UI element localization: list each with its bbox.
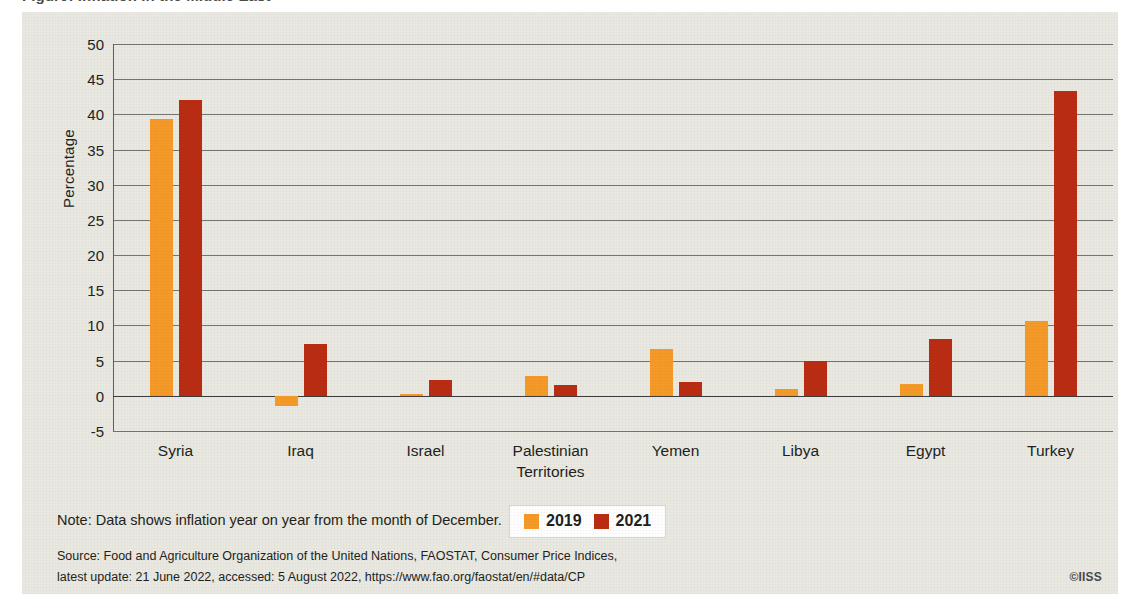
gridline-50 (113, 44, 1113, 45)
bar-yemen-2021 (679, 382, 702, 396)
gridline-5 (113, 361, 1113, 362)
category-label-palestinian-territories: Palestinian Territories (488, 440, 613, 482)
bar-iraq-2021 (304, 344, 327, 395)
y-tick-label-30: 30 (87, 176, 104, 193)
iiss-credit: ©IISS (1069, 570, 1102, 584)
gridline-40 (113, 114, 1113, 115)
bar-syria-2021 (179, 100, 202, 396)
category-label-iraq: Iraq (238, 440, 363, 461)
y-axis-line (113, 44, 114, 431)
bar-libya-2019 (775, 389, 798, 395)
y-tick-label-20: 20 (87, 247, 104, 264)
gridline-25 (113, 220, 1113, 221)
chart-legend: 20192021 (509, 505, 666, 538)
legend-entry-2019[interactable]: 2019 (524, 512, 582, 530)
y-tick-label-0: 0 (96, 387, 104, 404)
bar-turkey-2019 (1025, 321, 1048, 396)
gridline-45 (113, 79, 1113, 80)
y-tick-label-5: 5 (96, 352, 104, 369)
figure-title: Figure: Inflation in the Middle East (22, 0, 271, 4)
category-label-egypt: Egypt (863, 440, 988, 461)
bar-turkey-2021 (1054, 91, 1077, 396)
bar-israel-2021 (429, 380, 452, 396)
gridline-0 (113, 396, 1113, 397)
bar-egypt-2021 (929, 339, 952, 396)
category-label-turkey: Turkey (988, 440, 1113, 461)
gridline-15 (113, 290, 1113, 291)
bar-libya-2021 (804, 361, 827, 396)
y-tick-label-40: 40 (87, 106, 104, 123)
bar-palestinian-territories-2021 (554, 385, 577, 396)
gridline-10 (113, 325, 1113, 326)
y-tick-label-25: 25 (87, 211, 104, 228)
y-tick-label--5: -5 (91, 423, 104, 440)
source-line-2: latest update: 21 June 2022, accessed: 5… (57, 567, 617, 588)
legend-entry-2021[interactable]: 2021 (594, 512, 652, 530)
legend-label-2019: 2019 (546, 512, 582, 530)
gridline-20 (113, 255, 1113, 256)
bar-syria-2019 (150, 119, 173, 396)
y-tick-label-10: 10 (87, 317, 104, 334)
bar-egypt-2019 (900, 384, 923, 396)
chart-figure: Figure: Inflation in the Middle East Per… (0, 0, 1142, 606)
legend-swatch-2021 (594, 514, 609, 529)
plot-area: 50454035302520151050-5 SyriaIraqIsraelPa… (113, 44, 1113, 431)
category-label-israel: Israel (363, 440, 488, 461)
bar-iraq-2019 (275, 396, 298, 407)
bar-palestinian-territories-2019 (525, 376, 548, 396)
category-label-yemen: Yemen (613, 440, 738, 461)
y-axis-title: Percentage (60, 68, 77, 208)
chart-panel: Percentage 50454035302520151050-5 SyriaI… (22, 12, 1118, 594)
legend-label-2021: 2021 (616, 512, 652, 530)
note-text: Note: Data shows inflation year on year … (57, 512, 502, 528)
y-tick-label-50: 50 (87, 36, 104, 53)
gridline-30 (113, 185, 1113, 186)
category-label-syria: Syria (113, 440, 238, 461)
gridline-35 (113, 150, 1113, 151)
bar-israel-2019 (400, 394, 423, 396)
bar-yemen-2019 (650, 349, 673, 396)
figure-title-strip: Figure: Inflation in the Middle East (0, 0, 1142, 11)
source-text: Source: Food and Agriculture Organizatio… (57, 546, 617, 588)
y-tick-label-45: 45 (87, 71, 104, 88)
y-tick-label-35: 35 (87, 141, 104, 158)
source-line-1: Source: Food and Agriculture Organizatio… (57, 546, 617, 567)
category-label-libya: Libya (738, 440, 863, 461)
y-tick-label-15: 15 (87, 282, 104, 299)
gridline--5 (113, 431, 1113, 432)
legend-swatch-2019 (524, 514, 539, 529)
